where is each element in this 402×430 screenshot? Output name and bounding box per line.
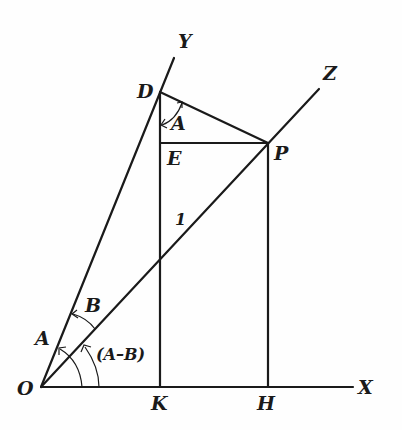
label-p: P [273, 142, 289, 164]
label-angle-a-at-o: A [33, 327, 50, 349]
label-op-length: 1 [175, 210, 186, 229]
label-e: E [166, 147, 182, 169]
diagram-svg: O X Y Z D E P K H A A B (A–B) 1 [0, 0, 402, 430]
label-x: X [357, 376, 374, 398]
label-o: O [17, 377, 34, 399]
label-h: H [256, 392, 276, 414]
label-d: D [136, 80, 154, 102]
label-y: Y [178, 30, 194, 52]
label-angle-b: B [84, 294, 101, 316]
trig-diagram: O X Y Z D E P K H A A B (A–B) 1 [0, 0, 402, 430]
oy-line [41, 58, 174, 387]
label-z: Z [322, 62, 338, 84]
label-angle-a-minus-b: (A–B) [96, 345, 145, 364]
label-angle-a-at-d: A [169, 112, 186, 134]
label-k: K [150, 392, 169, 414]
